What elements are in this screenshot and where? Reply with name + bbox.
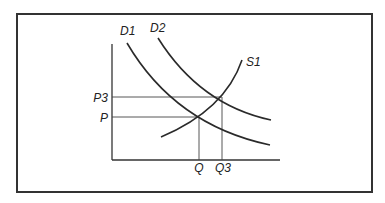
demand-curve-d2 [158, 38, 271, 120]
d2-label: D2 [150, 21, 166, 35]
q-label: Q [194, 161, 203, 175]
p3-label: P3 [93, 91, 108, 105]
d1-label: D1 [120, 24, 135, 38]
s1-label: S1 [246, 55, 261, 69]
supply-demand-diagram: D1 D2 S1 P3 P Q Q3 [0, 0, 385, 203]
q3-label: Q3 [215, 161, 231, 175]
p-label: P [100, 111, 108, 125]
